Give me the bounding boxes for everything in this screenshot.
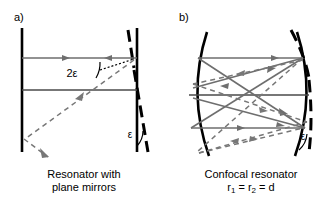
ray-escape-arrow	[40, 148, 49, 158]
ray-arrow-backward	[104, 55, 112, 61]
equals-d: = d	[256, 181, 275, 193]
ray-horizontal-upper-arrow	[271, 55, 279, 61]
panel-b-confocal-resonator: b)	[167, 0, 335, 212]
ray-solid-up-right	[191, 58, 303, 128]
panel-b-drawing: ε	[167, 0, 335, 168]
angle-arc-2epsilon	[96, 62, 100, 78]
ray-walkoff-arrow	[75, 92, 84, 101]
ray-solid-down-right-arrow	[279, 108, 288, 116]
panel-a-caption-line1: Resonator with	[47, 168, 120, 180]
angle-2epsilon-label: 2ε	[66, 67, 77, 79]
ray-arrow-forward	[62, 55, 70, 61]
panel-b-caption: Confocal resonator r1 = r2 = d	[167, 168, 335, 197]
equals-r2: = r	[235, 181, 251, 193]
angle-epsilon-label: ε	[128, 129, 133, 140]
panel-a-drawing: 2ε ε	[0, 0, 168, 168]
ray-solid-return-upper-arrow	[220, 83, 229, 89]
normal-reference-line	[100, 59, 134, 70]
angle-epsilon-label: ε	[301, 131, 306, 142]
panel-a-caption-line2: plane mirrors	[0, 181, 168, 194]
tilted-mirror-upper	[291, 30, 309, 78]
panel-a-caption: Resonator with plane mirrors	[0, 168, 168, 194]
ray-solid-down-right	[198, 58, 305, 128]
tilted-mirror-lower	[309, 80, 311, 152]
left-spherical-mirror	[197, 32, 209, 156]
panel-b-caption-line1: Confocal resonator	[205, 168, 298, 180]
figure-optical-resonators: a)	[0, 0, 335, 212]
panel-a-plane-resonator: a)	[0, 0, 168, 212]
ray-horizontal-lower-arrow	[237, 125, 245, 131]
panel-b-caption-line2: r1 = r2 = d	[167, 181, 335, 197]
